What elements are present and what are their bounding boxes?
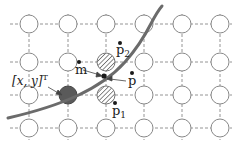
hatched-node-p2: [97, 53, 115, 71]
hatched-node-p1: [97, 86, 115, 104]
label-p2: p2: [116, 42, 130, 59]
label-m: m: [75, 62, 87, 77]
label-p: p: [128, 73, 136, 88]
grid-lines-vertical: [29, 14, 220, 140]
label-p1: p1: [112, 103, 126, 120]
label-xy-transpose: [x, y]T: [12, 73, 49, 88]
pixel-grid-diagram: p2 m p p1 [x, y]T: [0, 0, 239, 146]
